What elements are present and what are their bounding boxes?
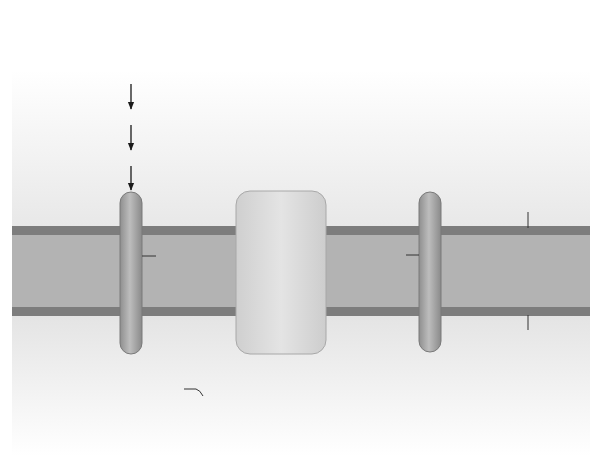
malate-shuttle-diagram <box>0 0 600 468</box>
right-transporter <box>419 192 441 352</box>
diagram-graphics <box>0 0 600 468</box>
malate-citrate-transporter <box>236 191 326 354</box>
left-transporter <box>120 192 142 354</box>
